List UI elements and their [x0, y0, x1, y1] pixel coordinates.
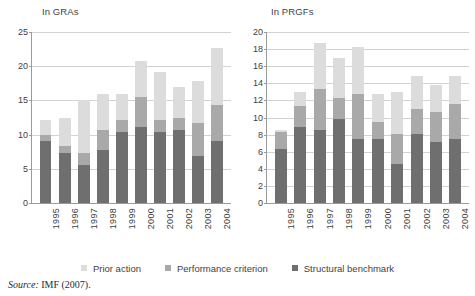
- y-axis-tick-label: 10: [253, 113, 263, 123]
- y-axis-tick-label: 16: [253, 61, 263, 71]
- legend-label: Prior action: [93, 263, 141, 274]
- bar-segment-structural-benchmark: [116, 132, 128, 203]
- bar-group-gra: 1995199619971998199920002001200220032004: [32, 32, 231, 203]
- chart-panel-prgf: In PRGFs 02468101214161820 1995199619971…: [238, 0, 475, 258]
- stacked-bar: [40, 120, 52, 203]
- bar-column: 1995: [36, 32, 55, 203]
- bar-segment-performance-criterion: [314, 89, 326, 130]
- x-axis-tick-label: 1997: [325, 208, 335, 229]
- bar-segment-prior-action: [411, 76, 423, 108]
- legend-swatch-icon: [292, 265, 298, 271]
- y-axis-tick-label: 0: [258, 198, 263, 208]
- legend-item-structural_benchmark: Structural benchmark: [292, 263, 394, 274]
- x-axis-tick-label: 1996: [305, 208, 315, 229]
- y-axis-tick-label: 15: [18, 95, 28, 105]
- bar-segment-prior-action: [59, 118, 71, 147]
- bar-column: 2002: [407, 32, 426, 203]
- bar-column: 1998: [93, 32, 112, 203]
- stacked-bar: [116, 94, 128, 203]
- x-axis-tick-label: 2003: [203, 208, 213, 229]
- bar-column: 1997: [310, 32, 329, 203]
- bar-segment-performance-criterion: [154, 120, 166, 132]
- legend-label: Performance criterion: [177, 263, 268, 274]
- bar-segment-structural-benchmark: [314, 130, 326, 203]
- bar-segment-prior-action: [449, 76, 461, 103]
- bar-segment-prior-action: [78, 100, 90, 153]
- bar-segment-prior-action: [391, 92, 403, 134]
- legend-label: Structural benchmark: [304, 263, 394, 274]
- bar-segment-performance-criterion: [173, 118, 185, 130]
- stacked-bar: [211, 48, 223, 203]
- bar-segment-structural-benchmark: [411, 134, 423, 203]
- stacked-bar: [173, 87, 185, 203]
- x-axis-tick-label: 2002: [422, 208, 432, 229]
- bar-column: 1998: [329, 32, 348, 203]
- bar-segment-structural-benchmark: [430, 142, 442, 203]
- y-axis-tick-label: 18: [253, 44, 263, 54]
- bar-segment-prior-action: [40, 120, 52, 135]
- bar-column: 2000: [131, 32, 150, 203]
- source-note: Source: IMF (2007).: [8, 279, 91, 290]
- bar-segment-structural-benchmark: [97, 150, 109, 203]
- bar-segment-prior-action: [372, 94, 384, 122]
- bar-segment-performance-criterion: [116, 120, 128, 132]
- y-axis-tick-label: 8: [258, 130, 263, 140]
- stacked-bar: [192, 81, 204, 203]
- stacked-bar: [430, 85, 442, 203]
- bar-segment-prior-action: [154, 72, 166, 121]
- bar-segment-performance-criterion: [275, 132, 287, 149]
- bar-column: 2004: [446, 32, 465, 203]
- stacked-bar: [59, 118, 71, 203]
- x-axis-tick-label: 1998: [108, 208, 118, 229]
- x-axis-tick-label: 2001: [165, 208, 175, 229]
- bar-segment-performance-criterion: [294, 106, 306, 127]
- bar-column: 2003: [426, 32, 445, 203]
- x-axis-tick-label: 2004: [460, 208, 470, 229]
- stacked-bar: [78, 100, 90, 203]
- chart-panel-gra: In GRAs 0510152025 199519961997199819992…: [0, 0, 238, 258]
- bar-column: 1996: [55, 32, 74, 203]
- y-axis-tick-label: 12: [253, 95, 263, 105]
- legend-item-prior_action: Prior action: [81, 263, 141, 274]
- bar-segment-structural-benchmark: [391, 164, 403, 203]
- y-axis-tick-label: 5: [23, 164, 28, 174]
- bar-segment-structural-benchmark: [211, 141, 223, 203]
- bar-segment-prior-action: [211, 48, 223, 105]
- bar-segment-performance-criterion: [430, 112, 442, 142]
- plot-area-prgf: 02468101214161820 1995199619971998199920…: [266, 32, 469, 204]
- plot-area-gra: 0510152025 19951996199719981999200020012…: [31, 32, 231, 204]
- bar-segment-performance-criterion: [352, 94, 364, 138]
- bar-segment-prior-action: [97, 94, 109, 130]
- bar-column: 2002: [170, 32, 189, 203]
- bar-segment-prior-action: [314, 43, 326, 89]
- bar-segment-performance-criterion: [78, 153, 90, 165]
- y-axis-tick-label: 10: [18, 130, 28, 140]
- y-axis-tick-label: 20: [253, 27, 263, 37]
- bar-segment-performance-criterion: [391, 134, 403, 164]
- bar-segment-structural-benchmark: [135, 127, 147, 203]
- source-text: IMF (2007).: [41, 279, 90, 290]
- stacked-bar: [449, 76, 461, 203]
- x-axis-tick-label: 1997: [89, 208, 99, 229]
- bar-segment-structural-benchmark: [352, 139, 364, 203]
- bar-segment-performance-criterion: [97, 130, 109, 150]
- bar-group-prgf: 1995199619971998199920002001200220032004: [267, 32, 469, 203]
- stacked-bar: [411, 76, 423, 203]
- chart-title-prgf: In PRGFs: [271, 6, 314, 17]
- source-label: Source:: [8, 279, 39, 290]
- bar-segment-structural-benchmark: [372, 139, 384, 203]
- bar-segment-prior-action: [352, 47, 364, 95]
- bar-segment-performance-criterion: [411, 109, 423, 134]
- legend-swatch-icon: [165, 265, 171, 271]
- bar-segment-structural-benchmark: [40, 141, 52, 203]
- x-axis-tick-label: 1999: [363, 208, 373, 229]
- bar-segment-structural-benchmark: [78, 165, 90, 203]
- bar-column: 2004: [208, 32, 227, 203]
- bar-segment-performance-criterion: [59, 146, 71, 153]
- stacked-bar: [154, 72, 166, 203]
- bar-segment-performance-criterion: [135, 97, 147, 127]
- legend-swatch-icon: [81, 265, 87, 271]
- x-axis-tick-label: 1995: [51, 208, 61, 229]
- y-axis-tick-label: 14: [253, 78, 263, 88]
- bar-column: 2003: [189, 32, 208, 203]
